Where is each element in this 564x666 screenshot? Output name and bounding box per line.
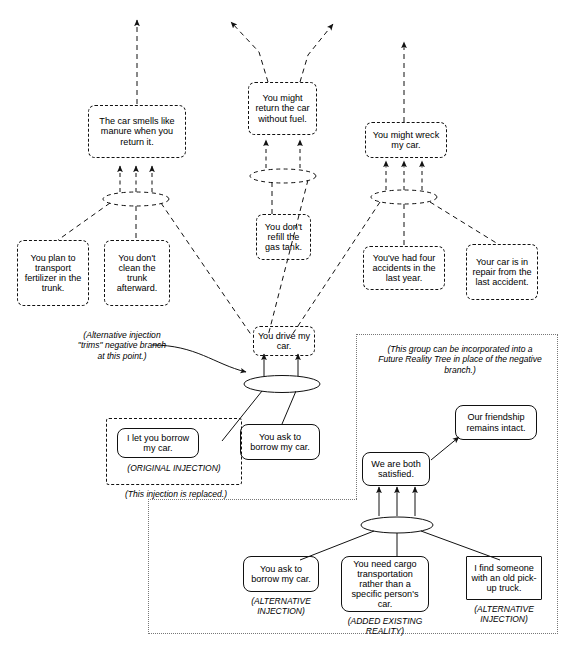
- future-reality-tree-group-left-lower: [148, 499, 149, 634]
- node-original-injection[interactable]: I let you borrow my car.: [117, 428, 199, 458]
- leg-e1-drive: [161, 203, 252, 336]
- and-connector-1: [103, 192, 169, 206]
- node-need-cargo[interactable]: You need cargo transportation rather tha…: [341, 556, 429, 612]
- node-dont-refill[interactable]: You don't refill the gas tank.: [256, 214, 311, 260]
- node-might-wreck[interactable]: You might wreck my car.: [365, 122, 447, 158]
- node-return-no-fuel[interactable]: You might return the car without fuel.: [248, 82, 317, 135]
- annotation-injection-replaced: (This injection is replaced.): [96, 489, 256, 499]
- leg-e1-plan: [58, 203, 110, 240]
- annotation-group-note: (This group can be incorporated into a F…: [374, 344, 546, 375]
- future-reality-tree-group-left-upper: [356, 334, 357, 499]
- and-connector-2: [250, 169, 316, 183]
- node-you-ask-middle[interactable]: You ask to borrow my car.: [240, 424, 320, 460]
- node-pickup-truck[interactable]: I find someone with an old pick-up truck…: [466, 556, 542, 600]
- open-arrow-fuel-right: [300, 24, 333, 82]
- node-car-in-repair[interactable]: Your car is in repair from the last acci…: [466, 244, 538, 300]
- node-friendship-intact[interactable]: Our friendship remains intact.: [455, 405, 537, 440]
- node-car-smells[interactable]: The car smells like manure when you retu…: [88, 105, 186, 158]
- label-added-existing-reality: (ADDED EXISTING REALITY): [338, 616, 432, 636]
- node-plan-transport[interactable]: You plan to transport fertilizer in the …: [17, 240, 89, 306]
- node-you-drive[interactable]: You drive my car.: [253, 326, 315, 356]
- label-original-injection: (ORIGINAL INJECTION): [110, 463, 238, 473]
- leg-e3-repair: [430, 202, 498, 244]
- future-reality-tree-group-top: [356, 334, 558, 335]
- node-four-accidents[interactable]: You've had four accidents in the last ye…: [363, 246, 445, 290]
- node-dont-clean[interactable]: You don't clean the trunk afterward.: [104, 240, 170, 306]
- annotation-alternative-trims: (Alternative injection "trims" negative …: [74, 330, 170, 361]
- diagram-canvas: The car smells like manure when you retu…: [0, 0, 564, 666]
- label-alternative-injection-right: (ALTERNATIVE INJECTION): [462, 604, 546, 624]
- and-connector-3: [371, 190, 437, 204]
- node-both-satisfied[interactable]: We are both satisfied.: [362, 452, 430, 486]
- open-arrow-fuel-left: [231, 22, 268, 82]
- node-you-ask-alternative[interactable]: You ask to borrow my car.: [243, 556, 319, 592]
- label-alternative-injection-left: (ALTERNATIVE INJECTION): [240, 596, 322, 616]
